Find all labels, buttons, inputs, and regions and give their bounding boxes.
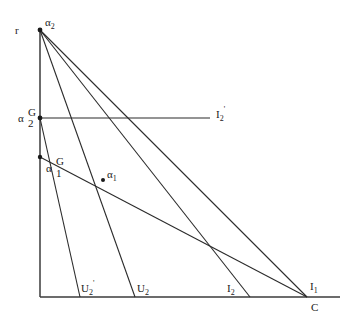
label-alpha1: α1 [107, 168, 117, 183]
point-alpha2-apex [38, 28, 43, 33]
point-alpha2G [38, 116, 43, 121]
line-I1-from-apex [40, 30, 307, 297]
economics-indifference-diagram: r α2 α G 2 α G 1 α1 I2' U2' U2 I2 I1 C [0, 0, 344, 324]
line-U2-from-apex [40, 30, 135, 297]
label-U2-base: U [137, 282, 145, 294]
label-alpha2G-subscript: 2 [28, 117, 34, 129]
label-U2: U2 [137, 282, 149, 297]
label-C-axis: C [311, 301, 318, 313]
label-alpha1G-superscript: G [56, 155, 64, 167]
diagram-canvas: r α2 α G 2 α G 1 α1 I2' U2' U2 I2 I1 C [0, 0, 344, 324]
label-alpha2G-alpha: α [18, 112, 24, 124]
label-U2-subscript: 2 [145, 288, 149, 297]
label-U2prime-mark: ' [93, 279, 95, 288]
label-alpha2-subscript: 2 [51, 22, 55, 31]
label-I2-subscript: 2 [231, 288, 235, 297]
label-r: r [15, 24, 19, 36]
label-U2prime-subscript: 2 [89, 288, 93, 297]
label-U2prime-base: U [81, 282, 89, 294]
label-alpha1G-subscript: 1 [56, 167, 62, 179]
label-I2prime: I2' [216, 105, 226, 123]
line-budget-lower [40, 157, 307, 297]
label-I1-subscript: 1 [314, 286, 318, 295]
label-I2prime-subscript: 2 [220, 114, 224, 123]
label-I1: I1 [310, 280, 318, 295]
point-alpha1 [101, 178, 105, 182]
label-alpha1G-alpha: α [46, 162, 52, 174]
label-alpha1-subscript: 1 [113, 174, 117, 183]
label-I2prime-mark: ' [224, 105, 226, 114]
label-alpha2: α2 [45, 16, 55, 31]
label-I2: I2 [227, 282, 235, 297]
label-U2prime: U2' [81, 279, 95, 297]
line-U2prime [40, 118, 80, 297]
point-alpha1G [38, 155, 42, 159]
